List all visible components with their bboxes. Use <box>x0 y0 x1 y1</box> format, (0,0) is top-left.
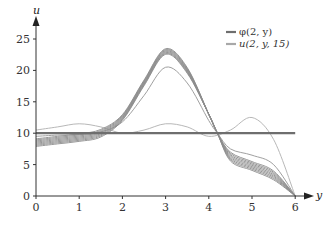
u-curve-band <box>36 54 295 196</box>
x-axis: y 0123456 <box>33 189 324 214</box>
plot-area <box>36 48 295 196</box>
x-tick-label: 5 <box>249 201 256 214</box>
x-tick-label: 2 <box>119 201 126 214</box>
u-curve-band <box>36 48 295 196</box>
x-tick-label: 4 <box>205 201 212 214</box>
x-tick-label: 0 <box>33 201 40 214</box>
y-tick-label: 25 <box>16 33 30 46</box>
x-tick-label: 3 <box>162 201 169 214</box>
u-curve-band <box>36 49 295 196</box>
x-tick-label: 6 <box>292 201 299 214</box>
legend: φ(2, y) u(2, y, 15) <box>226 26 289 49</box>
y-tick-label: 15 <box>16 96 30 109</box>
x-tick-label: 1 <box>76 201 83 214</box>
y-tick-label: 10 <box>16 127 30 140</box>
arrow-right-icon <box>304 193 314 200</box>
legend-label-u: u(2, y, 15) <box>239 38 289 49</box>
y-axis: u 0510152025 <box>16 4 40 203</box>
chart: u 0510152025 y 0123456 φ(2, y) u(2, y, 1… <box>0 0 336 225</box>
y-axis-label: u <box>33 4 40 17</box>
y-tick-label: 5 <box>23 159 30 172</box>
x-axis-label: y <box>315 189 323 202</box>
legend-label-phi: φ(2, y) <box>239 26 272 37</box>
u-curve-mid <box>36 67 295 196</box>
y-tick-label: 0 <box>23 190 30 203</box>
u-curve-band <box>36 50 295 196</box>
arrow-up-icon <box>33 16 40 26</box>
y-tick-label: 20 <box>16 64 30 77</box>
u-curve-band <box>36 53 295 196</box>
